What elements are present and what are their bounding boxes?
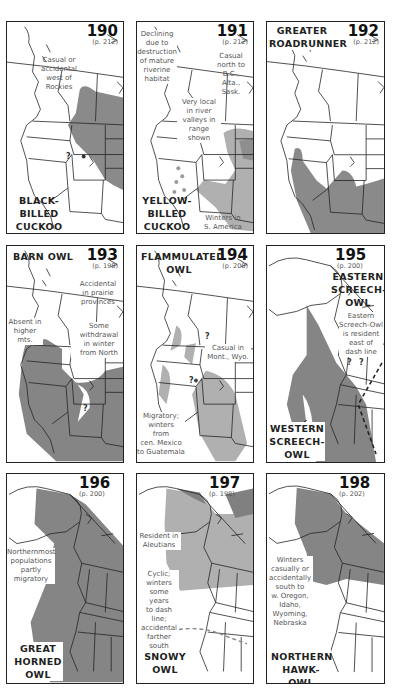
range-note-local: Very localin rivervalleys inrange shown <box>177 98 221 143</box>
species-number: 198 <box>339 476 370 491</box>
range-note-winters: Winters inS. America <box>201 214 245 232</box>
species-number: 195 <box>335 248 366 263</box>
species-name: BARN OWL <box>13 250 73 263</box>
range-note-casual: Casualnorth toB.C.,Alta.,Sask. <box>211 52 251 97</box>
species-number: 192 <box>348 24 379 39</box>
question-mark: ? <box>66 152 71 161</box>
map-panel-194-flammulated-owl: 194 (p. 200) FLAMMULATEDOWL Casual inMon… <box>136 245 254 463</box>
question-mark: ? <box>205 332 210 341</box>
question-mark: ? <box>83 404 88 413</box>
page-reference: (p. 200) <box>222 262 248 270</box>
range-note-cyclic: Cyclic;winterssome yearsto dashline;acci… <box>139 570 179 651</box>
page-reference: (p. 212) <box>222 38 248 46</box>
page-reference: (p. 202) <box>339 490 365 498</box>
range-note-migratory: Migratory;wintersfromcen. Mexicoto Guate… <box>137 412 185 457</box>
range-note: EasternScreech-Owlis residenteast ofdash… <box>339 312 383 357</box>
page-reference: (p. 200) <box>337 262 363 270</box>
species-number: 197 <box>209 476 240 491</box>
range-map <box>267 22 384 233</box>
range-note-aleutians: Resident inAleutians <box>137 532 181 550</box>
range-note-absent: Absent inhighermts. <box>7 318 43 345</box>
page-reference: (p. 212) <box>353 38 379 46</box>
species-number: 196 <box>79 476 110 491</box>
species-number: 191 <box>217 24 248 39</box>
page-reference: (p. 212) <box>92 38 118 46</box>
range-note: Northernmostpopulationspartlymigratory <box>7 548 55 584</box>
range-note: Casual oraccidentalwest ofRockies <box>37 56 81 92</box>
map-panel-193-barn-owl: 193 (p. 198) BARN OWL Accidentalin prair… <box>6 245 124 463</box>
species-name: BLACK-BILLEDCUCKOO <box>11 194 67 233</box>
species-name-western: WESTERNSCREECH-OWL <box>269 422 325 461</box>
question-mark: ? <box>359 358 364 367</box>
species-name-eastern: EASTERNSCREECH-OWL <box>331 270 385 309</box>
question-mark: ? <box>189 376 194 385</box>
species-name: GREATERROADRUNNER <box>269 24 335 50</box>
map-panel-197-snowy-owl: 197 (p. 198) Resident inAleutians Cyclic… <box>136 473 254 684</box>
question-mark: ? <box>347 358 352 367</box>
map-panel-195-screech-owls: 195 (p. 200) EASTERNSCREECH-OWL EasternS… <box>266 245 385 463</box>
range-note-accidental: Accidentalin prairieprovinces <box>77 280 119 307</box>
page-reference: (p. 198) <box>92 262 118 270</box>
species-name: YELLOW-BILLEDCUCKOO <box>139 194 195 233</box>
species-name: GREATHORNEDOWL <box>13 642 63 681</box>
map-panel-192-greater-roadrunner: 192 (p. 212) GREATERROADRUNNER <box>266 21 385 234</box>
species-name: FLAMMULATEDOWL <box>141 250 217 276</box>
species-number: 193 <box>87 248 118 263</box>
map-panel-196-great-horned-owl: 196 (p. 200) Northernmostpopulationspart… <box>6 473 124 684</box>
page-reference: (p. 198) <box>209 490 235 498</box>
range-note: Winterscasually oraccidentallysouth tow.… <box>267 556 313 628</box>
species-name: SNOWYOWL <box>143 650 187 676</box>
page-reference: (p. 200) <box>79 490 105 498</box>
range-note-declining: Decliningdue todestructionof matureriver… <box>137 30 177 84</box>
map-panel-198-northern-hawk-owl: 198 (p. 202) Winterscasually oraccidenta… <box>266 473 385 684</box>
species-number: 190 <box>87 24 118 39</box>
map-panel-191-yellow-billed-cuckoo: 191 (p. 212) Decliningdue todestructiono… <box>136 21 254 234</box>
range-note-casual: Casual inMont., Wyo. <box>205 344 251 362</box>
species-name: NORTHERNHAWK-OWL <box>271 650 331 684</box>
range-note-withdrawal: Some withdrawalin winterfrom North <box>71 322 124 358</box>
map-panel-190-black-billed-cuckoo: 190 (p. 212) Casual oraccidentalwest ofR… <box>6 21 124 234</box>
